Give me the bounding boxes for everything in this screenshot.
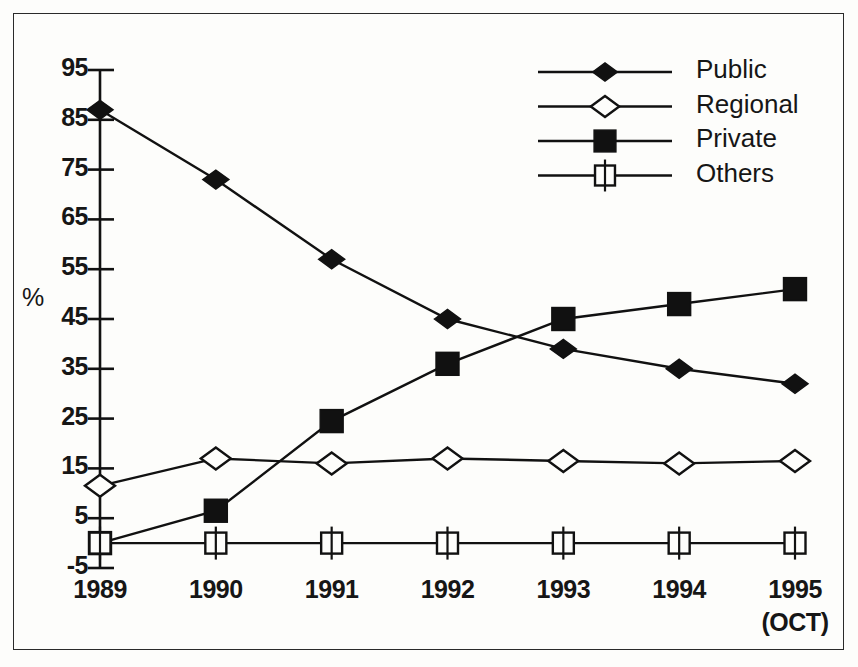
data-point-marker <box>782 374 808 393</box>
y-tick-label: 55 <box>10 252 88 281</box>
marker-open-diamond <box>591 96 620 117</box>
x-tick-label: 1991 <box>272 575 392 604</box>
x-tick-label: 1993 <box>503 575 623 604</box>
marker-open-diamond <box>664 452 694 474</box>
legend-label-others[interactable]: Others <box>696 158 774 189</box>
marker-filled-square <box>594 130 616 152</box>
marker-filled-diamond <box>666 359 692 378</box>
marker-filled-diamond <box>435 310 461 329</box>
marker-filled-square <box>204 499 227 522</box>
y-tick-label: 95 <box>10 53 88 82</box>
data-point-marker <box>204 499 227 522</box>
data-point-marker <box>321 527 342 560</box>
data-point-marker <box>668 293 691 316</box>
data-point-marker <box>593 63 618 81</box>
chart-figure: -55152535455565758595 198919901991199219… <box>0 0 858 667</box>
marker-filled-diamond <box>782 374 808 393</box>
data-point-marker <box>433 447 463 469</box>
marker-open-diamond <box>317 452 347 474</box>
marker-filled-square <box>552 308 575 331</box>
series-line <box>100 110 795 384</box>
data-point-marker <box>552 308 575 331</box>
data-point-marker <box>550 339 576 358</box>
y-tick-label: 35 <box>10 352 88 381</box>
marker-filled-square <box>668 293 691 316</box>
data-point-marker <box>435 310 461 329</box>
marker-filled-square <box>436 352 459 375</box>
legend-item-regional[interactable] <box>538 96 672 117</box>
x-tick-label: 1994 <box>619 575 739 604</box>
marker-filled-diamond <box>550 339 576 358</box>
x-tick-label: 1992 <box>388 575 508 604</box>
y-tick-label: 25 <box>10 402 88 431</box>
data-point-marker <box>201 447 231 469</box>
data-point-marker <box>205 527 226 560</box>
legend-label-regional[interactable]: Regional <box>696 89 799 120</box>
x-tick-label: 1990 <box>156 575 276 604</box>
marker-open-diamond <box>433 447 463 469</box>
data-point-marker <box>85 475 115 497</box>
data-point-marker <box>436 352 459 375</box>
marker-open-diamond <box>780 450 810 472</box>
data-point-marker <box>553 527 574 560</box>
data-point-marker <box>595 160 615 192</box>
x-tick-label: 1995 <box>735 575 855 604</box>
data-point-marker <box>664 452 694 474</box>
marker-open-diamond <box>201 447 231 469</box>
x-tick-label: 1989 <box>40 575 160 604</box>
marker-filled-diamond <box>593 63 618 81</box>
y-axis-title: % <box>22 283 44 312</box>
x-tick-note: (OCT) <box>735 608 855 637</box>
y-tick-label: 5 <box>10 501 88 530</box>
marker-open-diamond <box>548 450 578 472</box>
data-point-marker <box>785 527 806 560</box>
data-point-marker <box>669 527 690 560</box>
data-point-marker <box>666 359 692 378</box>
data-point-marker <box>317 452 347 474</box>
marker-filled-square <box>784 278 807 301</box>
marker-filled-square <box>320 410 343 433</box>
data-point-marker <box>594 130 616 152</box>
data-point-marker <box>320 410 343 433</box>
legend-item-private[interactable] <box>538 130 672 152</box>
y-tick-label: 75 <box>10 153 88 182</box>
series-regional <box>85 447 810 496</box>
legend-item-others[interactable] <box>538 160 672 192</box>
legend-layer <box>538 63 672 192</box>
legend-label-public[interactable]: Public <box>696 54 767 85</box>
y-tick-label: 85 <box>10 103 88 132</box>
series-others <box>90 527 806 560</box>
legend-label-private[interactable]: Private <box>696 123 777 154</box>
data-point-marker <box>548 450 578 472</box>
data-point-marker <box>90 527 111 560</box>
data-point-marker <box>780 450 810 472</box>
y-tick-label: 65 <box>10 202 88 231</box>
data-point-marker <box>437 527 458 560</box>
data-point-marker <box>784 278 807 301</box>
data-point-marker <box>591 96 620 117</box>
y-tick-label: 15 <box>10 451 88 480</box>
legend-item-public[interactable] <box>538 63 672 81</box>
marker-open-diamond <box>85 475 115 497</box>
